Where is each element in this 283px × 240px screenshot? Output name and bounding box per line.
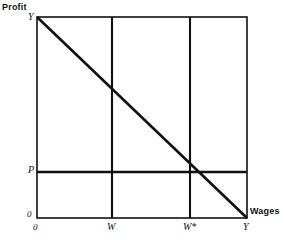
x-axis-tick-y: Y [243, 221, 249, 232]
profit-wage-frontier-line [37, 17, 247, 218]
y-axis-tick-p: P [28, 164, 34, 175]
y-axis-tick-y: Y [28, 11, 34, 22]
profit-wages-diagram: Profit Wages Y P 0 0 W W* Y [0, 0, 283, 240]
y-axis-title: Profit [2, 2, 27, 12]
x-axis-title: Wages [250, 206, 280, 216]
x-axis-tick-zero: 0 [33, 222, 38, 232]
x-axis-tick-wstar: W* [183, 221, 196, 232]
y-axis-tick-zero: 0 [27, 209, 32, 219]
diagram-canvas [0, 0, 283, 240]
x-axis-tick-w: W [107, 221, 115, 232]
